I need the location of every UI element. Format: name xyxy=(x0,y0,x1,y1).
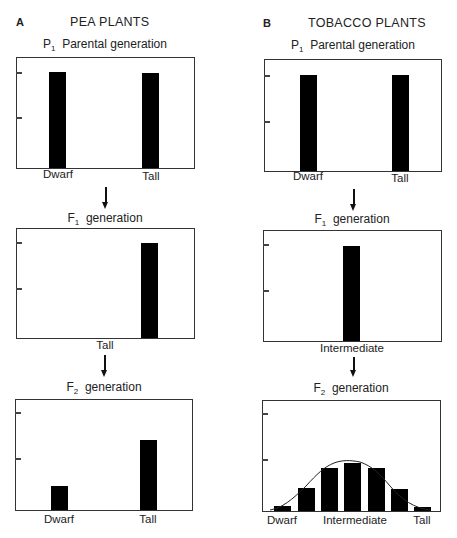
bar-tall xyxy=(141,243,158,338)
arrow-line xyxy=(104,355,106,371)
a-f1-label-tall: Tall xyxy=(80,339,130,351)
bar-tall xyxy=(140,440,157,510)
bar-dwarf xyxy=(51,486,68,510)
a-f1-title: F1 generation xyxy=(16,211,194,227)
bar-dwarf xyxy=(49,72,66,168)
gen-label: Parental generation xyxy=(310,38,415,52)
gen-prefix: P xyxy=(43,37,51,51)
bar-intermediate xyxy=(343,246,360,341)
a-p1-chart-frame xyxy=(16,57,195,169)
y-tick xyxy=(16,242,22,244)
gen-label: generation xyxy=(86,211,143,225)
y-tick xyxy=(16,288,22,290)
a-f2-title: F2 generation xyxy=(15,380,193,396)
y-tick xyxy=(15,412,21,414)
gen-label: generation xyxy=(85,380,142,394)
gen-sub: 1 xyxy=(51,44,55,53)
b-f2-title: F2 generation xyxy=(262,381,440,397)
b-p1-label-dwarf: Dwarf xyxy=(283,170,333,182)
arrow-line xyxy=(353,357,355,371)
panel-a-letter: A xyxy=(16,16,24,28)
bar-tall xyxy=(392,75,409,171)
normal-curve xyxy=(262,400,441,512)
panel-b-title: TOBACCO PLANTS xyxy=(308,16,426,30)
b-f2-label-intermediate: Intermediate xyxy=(315,514,395,526)
bar-dwarf xyxy=(300,75,317,171)
arrow-down-icon xyxy=(350,204,356,211)
b-p1-label-tall: Tall xyxy=(375,172,425,184)
arrow-down-icon xyxy=(101,370,107,377)
y-tick xyxy=(15,458,21,460)
b-p1-title: P1 Parental generation xyxy=(264,38,442,54)
a-p1-title: P1 Parental generation xyxy=(16,37,194,53)
a-f2-label-tall: Tall xyxy=(123,513,173,525)
a-f2-chart-frame xyxy=(15,399,193,511)
y-tick xyxy=(16,117,22,119)
gen-sub: 2 xyxy=(321,388,325,397)
arrow-line xyxy=(353,189,355,205)
gen-sub: 1 xyxy=(299,45,303,54)
y-tick xyxy=(264,121,270,123)
arrow-line xyxy=(105,187,107,203)
a-p1-label-dwarf: Dwarf xyxy=(33,168,83,180)
a-p1-label-tall: Tall xyxy=(126,170,176,182)
arrow-down-icon xyxy=(350,370,356,377)
b-f1-label-intermediate: Intermediate xyxy=(312,342,392,354)
gen-prefix: F xyxy=(314,212,321,226)
bar-tall xyxy=(142,73,159,168)
gen-prefix: F xyxy=(313,381,320,395)
y-tick xyxy=(263,244,269,246)
gen-prefix: F xyxy=(67,211,74,225)
gen-label: Parental generation xyxy=(62,37,167,51)
panel-b-letter: B xyxy=(263,17,271,29)
gen-prefix: P xyxy=(291,38,299,52)
b-f2-label-dwarf: Dwarf xyxy=(262,514,302,526)
y-tick xyxy=(263,290,269,292)
a-f1-chart-frame xyxy=(16,228,195,339)
gen-label: generation xyxy=(332,381,389,395)
arrow-down-icon xyxy=(102,202,108,209)
gen-label: generation xyxy=(333,212,390,226)
gen-sub: 1 xyxy=(75,218,79,227)
gen-sub: 1 xyxy=(322,219,326,228)
gen-prefix: F xyxy=(66,380,73,394)
y-tick xyxy=(16,72,22,74)
b-p1-chart-frame xyxy=(264,59,442,172)
y-tick xyxy=(264,75,270,77)
gen-sub: 2 xyxy=(74,387,78,396)
panel-a-title: PEA PLANTS xyxy=(70,15,149,29)
b-f2-label-tall: Tall xyxy=(407,514,437,526)
a-f2-label-dwarf: Dwarf xyxy=(34,513,84,525)
b-f1-title: F1 generation xyxy=(263,212,441,228)
